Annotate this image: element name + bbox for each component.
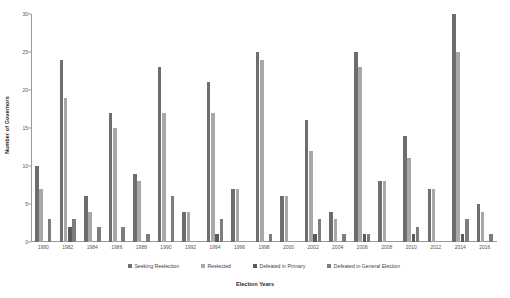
bar-group: [374, 14, 399, 242]
bar: [461, 234, 465, 242]
y-axis-title: Number of Governors: [0, 0, 14, 250]
bar: [342, 234, 346, 242]
bar: [133, 174, 137, 242]
legend-label: Defeated in Primary: [259, 263, 305, 269]
x-tick-label: 1982: [56, 244, 81, 250]
x-tick-label: 1998: [252, 244, 277, 250]
bar: [211, 113, 215, 242]
bar: [329, 212, 333, 242]
bar: [84, 196, 88, 242]
bar: [378, 181, 382, 242]
legend-item[interactable]: Defeated in General Election: [327, 263, 400, 269]
x-axis-title: Election Years: [0, 281, 510, 287]
bar: [269, 234, 273, 242]
x-tick-label: 2004: [325, 244, 350, 250]
x-tick-label: 2006: [350, 244, 375, 250]
bar: [215, 234, 219, 242]
bar: [412, 234, 416, 242]
bar: [477, 204, 481, 242]
bar: [363, 234, 367, 242]
bar: [171, 196, 175, 242]
bar-group: [350, 14, 375, 242]
bar: [146, 234, 150, 242]
bar: [220, 219, 224, 242]
plot-area: 051015202530: [31, 14, 497, 242]
legend-item[interactable]: Defeated in Primary: [253, 263, 305, 269]
bars-layer: [31, 14, 497, 242]
bar: [432, 189, 436, 242]
bar-group: [105, 14, 130, 242]
bar-chart: Number of Governors 051015202530 1980198…: [0, 0, 510, 298]
bar: [285, 196, 289, 242]
bar: [465, 219, 469, 242]
bar-group: [31, 14, 56, 242]
bar: [60, 60, 64, 242]
bar-group: [80, 14, 105, 242]
y-axis-title-label: Number of Governors: [4, 96, 10, 154]
bar-group: [154, 14, 179, 242]
bar: [68, 227, 72, 242]
legend-item[interactable]: Reelected: [201, 263, 231, 269]
bar: [305, 120, 309, 242]
legend-swatch-icon: [128, 264, 132, 268]
bar-group: [252, 14, 277, 242]
x-tick-label: 1988: [129, 244, 154, 250]
x-tick-label: 2008: [374, 244, 399, 250]
bar: [182, 212, 186, 242]
bar-group: [473, 14, 498, 242]
bar: [207, 82, 211, 242]
bar: [407, 158, 411, 242]
bar: [383, 181, 387, 242]
x-tick-label: 2002: [301, 244, 326, 250]
bar: [97, 227, 101, 242]
bar: [428, 189, 432, 242]
x-tick-label: 1980: [31, 244, 56, 250]
bar: [358, 67, 362, 242]
legend-swatch-icon: [201, 264, 205, 268]
bar: [39, 189, 43, 242]
bar-group: [178, 14, 203, 242]
x-tick-label: 1986: [105, 244, 130, 250]
bar: [187, 212, 191, 242]
bar: [313, 234, 317, 242]
bar: [64, 98, 68, 242]
bar: [367, 234, 371, 242]
x-tick-label: 1990: [154, 244, 179, 250]
bar: [280, 196, 284, 242]
bar: [456, 52, 460, 242]
bar: [452, 14, 456, 242]
legend-label: Seeking Reelection: [134, 263, 179, 269]
bar-group: [203, 14, 228, 242]
x-tick-label: 2000: [276, 244, 301, 250]
legend-label: Defeated in General Election: [334, 263, 400, 269]
legend-swatch-icon: [253, 264, 257, 268]
bar: [334, 219, 338, 242]
bar-group: [448, 14, 473, 242]
x-tick-label: 2012: [424, 244, 449, 250]
legend-swatch-icon: [327, 264, 331, 268]
bar: [231, 189, 235, 242]
bar: [236, 189, 240, 242]
x-axis-ticks: 1980198219841986198819901992199419961998…: [31, 244, 497, 250]
bar-group: [301, 14, 326, 242]
legend-item[interactable]: Seeking Reelection: [128, 263, 179, 269]
bar: [158, 67, 162, 242]
bar: [309, 151, 313, 242]
bar: [489, 234, 493, 242]
x-tick-label: 2010: [399, 244, 424, 250]
x-tick-label: 1994: [203, 244, 228, 250]
bar: [403, 136, 407, 242]
bar: [354, 52, 358, 242]
bar: [109, 113, 113, 242]
bar-group: [276, 14, 301, 242]
x-tick-label: 2016: [473, 244, 498, 250]
bar: [137, 181, 141, 242]
bar-group: [129, 14, 154, 242]
bar-group: [325, 14, 350, 242]
bar: [256, 52, 260, 242]
bar: [48, 219, 52, 242]
x-tick-label: 1996: [227, 244, 252, 250]
bar-group: [399, 14, 424, 242]
legend-label: Reelected: [208, 263, 231, 269]
bar: [481, 212, 485, 242]
